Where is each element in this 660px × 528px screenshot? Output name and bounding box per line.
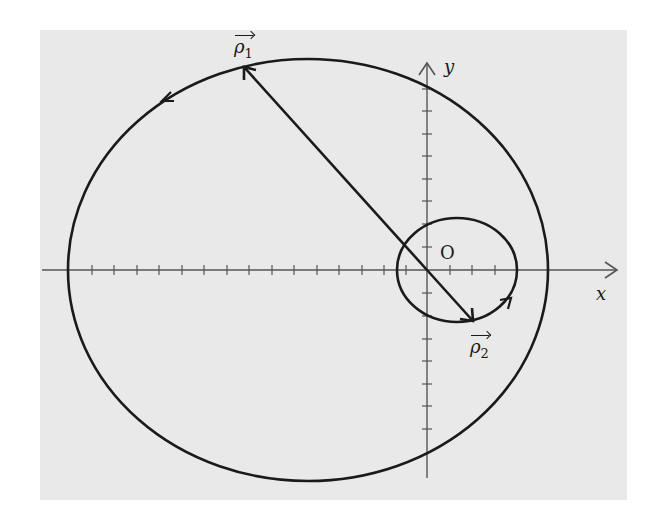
rho2-subscript: 2: [481, 346, 489, 361]
rho1-vector: [244, 67, 427, 270]
vector-arrow-icon: [471, 335, 489, 336]
y-axis-label: y: [444, 58, 454, 76]
rho2-vector: [427, 270, 473, 321]
rho1-label: ρ1: [234, 38, 253, 56]
diagram-canvas: [0, 0, 660, 528]
origin-label: O: [440, 244, 455, 262]
x-axis-label: x: [596, 285, 606, 303]
rho1-subscript: 1: [245, 46, 253, 61]
rho2-label: ρ2: [470, 338, 489, 356]
rho2-symbol: ρ: [470, 336, 481, 357]
rho1-symbol: ρ: [234, 36, 245, 57]
x-axis: [42, 262, 617, 278]
vector-arrow-icon: [235, 35, 253, 36]
